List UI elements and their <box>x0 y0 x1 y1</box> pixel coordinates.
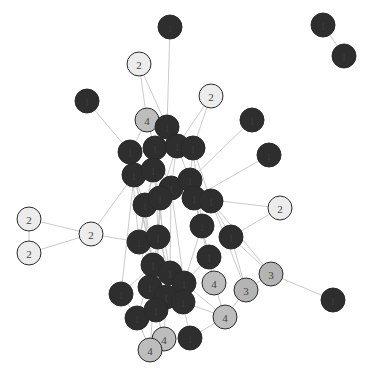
graph-node-group-4: 4 <box>138 338 162 362</box>
node-label: 1 <box>187 333 193 345</box>
node-label: 1 <box>131 170 137 182</box>
graph-node-group-1: 1 <box>332 44 356 68</box>
edge <box>167 27 170 127</box>
node-label: 1 <box>341 51 347 63</box>
node-label: 1 <box>174 141 180 153</box>
node-label: 1 <box>228 232 234 244</box>
graph-node-group-2: 2 <box>17 207 41 231</box>
network-diagram: 1212411111111111111122221111131114311111… <box>0 0 370 373</box>
node-label: 4 <box>144 115 150 127</box>
graph-node-group-4: 4 <box>202 271 226 295</box>
graph-node-group-3: 3 <box>259 262 283 286</box>
node-label: 2 <box>136 59 142 71</box>
graph-node-group-2: 2 <box>127 52 151 76</box>
network-graph-canvas: 1212411111111111111122221111131114311111… <box>0 0 370 373</box>
node-label: 1 <box>153 305 159 317</box>
node-label: 1 <box>266 150 272 162</box>
node-label: 1 <box>150 165 156 177</box>
nodes-layer: 1212411111111111111122221111131114311111… <box>17 13 356 362</box>
graph-node-group-1: 1 <box>109 282 133 306</box>
graph-node-group-1: 1 <box>148 186 172 210</box>
graph-node-group-1: 1 <box>75 89 99 113</box>
graph-node-group-1: 1 <box>178 326 202 350</box>
node-label: 1 <box>191 193 197 205</box>
node-label: 1 <box>136 237 142 249</box>
graph-node-group-1: 1 <box>144 298 168 322</box>
node-label: 1 <box>157 193 163 205</box>
node-label: 1 <box>199 221 205 233</box>
node-label: 1 <box>181 278 187 290</box>
node-label: 4 <box>211 278 217 290</box>
graph-node-group-1: 1 <box>240 108 264 132</box>
graph-node-group-4: 4 <box>213 305 237 329</box>
graph-node-group-1: 1 <box>181 136 205 160</box>
node-label: 3 <box>243 285 249 297</box>
graph-node-group-2: 2 <box>17 241 41 265</box>
graph-node-group-1: 1 <box>141 158 165 182</box>
node-label: 1 <box>84 96 90 108</box>
node-label: 2 <box>26 248 32 260</box>
node-label: 1 <box>330 295 336 307</box>
node-label: 3 <box>268 269 274 281</box>
node-label: 1 <box>134 313 140 325</box>
graph-node-group-2: 2 <box>199 84 223 108</box>
node-label: 1 <box>155 232 161 244</box>
graph-node-group-3: 3 <box>234 278 258 302</box>
graph-node-group-1: 1 <box>321 288 345 312</box>
node-label: 1 <box>127 147 133 159</box>
node-label: 1 <box>167 22 173 34</box>
graph-node-group-1: 1 <box>143 136 167 160</box>
graph-node-group-1: 1 <box>311 13 335 37</box>
graph-node-group-1: 1 <box>257 143 281 167</box>
node-label: 2 <box>208 91 214 103</box>
node-label: 4 <box>161 334 167 346</box>
node-label: 1 <box>187 175 193 187</box>
node-label: 1 <box>150 260 156 272</box>
graph-node-group-1: 1 <box>219 225 243 249</box>
node-label: 1 <box>118 289 124 301</box>
graph-node-group-1: 1 <box>146 225 170 249</box>
node-label: 1 <box>164 122 170 134</box>
node-label: 1 <box>167 268 173 280</box>
graph-node-group-1: 1 <box>118 140 142 164</box>
node-label: 4 <box>147 345 153 357</box>
graph-node-group-1: 1 <box>199 189 223 213</box>
node-label: 2 <box>277 203 283 215</box>
node-label: 1 <box>206 252 212 264</box>
graph-node-group-1: 1 <box>197 245 221 269</box>
node-label: 1 <box>180 297 186 309</box>
node-label: 1 <box>142 200 148 212</box>
node-label: 2 <box>88 229 94 241</box>
graph-node-group-1: 1 <box>190 214 214 238</box>
graph-node-group-1: 1 <box>171 290 195 314</box>
node-label: 1 <box>320 20 326 32</box>
node-label: 4 <box>222 312 228 324</box>
node-label: 2 <box>26 214 32 226</box>
graph-node-group-2: 2 <box>268 196 292 220</box>
node-label: 1 <box>147 282 153 294</box>
node-label: 1 <box>190 143 196 155</box>
node-label: 1 <box>249 115 255 127</box>
graph-node-group-1: 1 <box>158 15 182 39</box>
node-label: 1 <box>208 196 214 208</box>
graph-node-group-2: 2 <box>79 222 103 246</box>
node-label: 1 <box>152 143 158 155</box>
